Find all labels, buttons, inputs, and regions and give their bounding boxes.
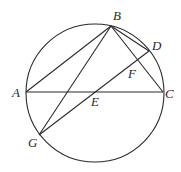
label-D: D bbox=[151, 38, 162, 53]
label-G: G bbox=[28, 135, 38, 150]
segment-BD bbox=[111, 26, 149, 51]
label-E: E bbox=[90, 94, 99, 109]
segment-GD bbox=[39, 51, 149, 135]
label-C: C bbox=[165, 86, 174, 101]
label-B: B bbox=[113, 8, 121, 23]
label-F: F bbox=[127, 66, 137, 81]
diagram-svg: B D F A C E G bbox=[0, 0, 181, 172]
geometry-diagram: B D F A C E G bbox=[0, 0, 181, 172]
label-A: A bbox=[11, 85, 20, 100]
segment-AB bbox=[26, 26, 111, 92]
segment-BG bbox=[39, 26, 111, 135]
circle bbox=[26, 24, 164, 162]
